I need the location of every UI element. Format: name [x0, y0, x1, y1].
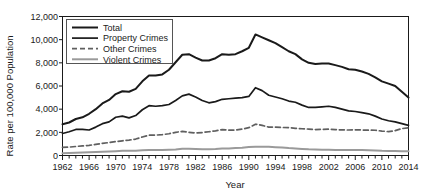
- x-tick-label: 2010: [372, 162, 392, 172]
- x-tick-label: 1962: [52, 162, 72, 172]
- y-axis-tick-marks: [59, 17, 63, 156]
- x-tick-label: 1978: [159, 162, 179, 172]
- x-tick-label: 1982: [186, 162, 206, 172]
- x-tick-label: 1998: [292, 162, 312, 172]
- series-line-violent-crimes: [63, 147, 409, 153]
- y-tick-label: 12,000: [30, 12, 58, 22]
- series-line-other-crimes: [63, 124, 409, 147]
- y-axis-title: Rate per 100,000 Population: [4, 36, 15, 157]
- y-tick-label: 10,000: [30, 35, 58, 45]
- x-tick-label: 2002: [319, 162, 339, 172]
- legend-label-other-crimes: Other Crimes: [103, 44, 157, 54]
- chart-canvas: Rate per 100,000 Population 02,0004,0006…: [0, 0, 432, 192]
- x-axis-minor-ticks: [63, 156, 409, 161]
- y-tick-label: 8,000: [35, 58, 58, 68]
- y-axis-tick-labels: 02,0004,0006,0008,00010,00012,000: [30, 12, 58, 161]
- y-tick-label: 6,000: [35, 81, 58, 91]
- x-tick-label: 1970: [106, 162, 126, 172]
- chart-legend: TotalProperty CrimesOther CrimesViolent …: [67, 20, 173, 65]
- legend-label-property-crimes: Property Crimes: [103, 33, 169, 43]
- x-tick-label: 2006: [345, 162, 365, 172]
- y-tick-label: 0: [53, 151, 58, 161]
- legend-label-total: Total: [103, 23, 122, 33]
- x-tick-label: 1994: [265, 162, 285, 172]
- x-axis-title-label: Year: [225, 179, 244, 190]
- legend-label-violent-crimes: Violent Crimes: [103, 55, 162, 65]
- x-tick-label: 1966: [79, 162, 99, 172]
- crime-rate-line-chart: Rate per 100,000 Population 02,0004,0006…: [0, 0, 432, 192]
- x-tick-label: 1990: [239, 162, 259, 172]
- x-tick-label: 1986: [212, 162, 232, 172]
- y-axis-title-label: Rate per 100,000 Population: [4, 36, 15, 157]
- x-tick-label: 2014: [398, 162, 418, 172]
- x-tick-label: 1974: [132, 162, 152, 172]
- x-axis-tick-labels: 1962196619701974197819821986199019941998…: [52, 162, 418, 172]
- y-tick-label: 2,000: [35, 128, 58, 138]
- y-tick-label: 4,000: [35, 104, 58, 114]
